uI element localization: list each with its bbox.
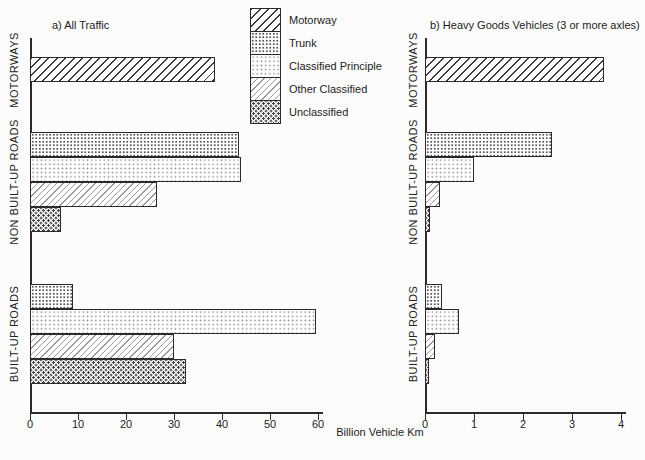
x-axis-line — [425, 412, 626, 414]
bar-other-classified — [425, 182, 440, 207]
bar-trunk — [425, 132, 552, 157]
bar-unclassified — [425, 359, 429, 384]
bar-classified-principle — [425, 309, 459, 334]
chart-hgv: 01234MOTORWAYSNON BUILT-UP ROADSBUILT-UP… — [0, 0, 645, 460]
x-tick-label: 2 — [520, 418, 526, 430]
bar-trunk — [425, 284, 442, 309]
x-tick-label: 1 — [471, 418, 477, 430]
x-tick-label: 4 — [618, 418, 624, 430]
group-label-built-up-roads: BUILT-UP ROADS — [407, 286, 419, 382]
bar-other-classified — [425, 334, 435, 359]
x-tick-label: 3 — [569, 418, 575, 430]
group-label-non-built-up-roads: NON BUILT-UP ROADS — [407, 119, 419, 244]
group-label-motorways: MOTORWAYS — [407, 32, 419, 107]
bar-motorway — [425, 57, 604, 82]
figure: a) All Traffic b) Heavy Goods Vehicles (… — [0, 0, 645, 460]
bar-classified-principle — [425, 157, 474, 182]
x-axis-label: Billion Vehicle Km — [336, 426, 423, 438]
bar-unclassified — [425, 207, 430, 232]
